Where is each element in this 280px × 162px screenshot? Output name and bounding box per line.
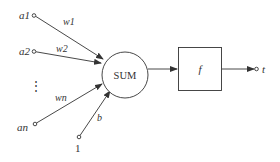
input-label-a1: a1 (19, 9, 30, 21)
sum-label: SUM (114, 70, 137, 81)
input-terminal-a2 (32, 50, 36, 54)
input-terminal-a1 (32, 14, 36, 18)
input-terminal-an (33, 122, 37, 126)
weight-label-w2: w2 (56, 43, 68, 54)
neuron-diagram: a1 w1 a2 w2 ⋮ an wn b 1 SUM f (0, 0, 280, 162)
output: t (222, 63, 266, 75)
bias-weight-label: b (97, 112, 102, 123)
edge-a2-sum (36, 52, 101, 63)
output-label: t (262, 63, 266, 75)
bias-terminal (77, 135, 81, 139)
bias-input: b 1 (75, 91, 110, 154)
edge-bias-sum (80, 91, 110, 136)
bias-input-label: 1 (75, 142, 81, 154)
input-a2: a2 w2 (19, 43, 101, 63)
input-label-a2: a2 (19, 45, 31, 57)
inputs-ellipsis: ⋮ (30, 79, 42, 93)
output-terminal (255, 67, 259, 71)
sum-node: SUM (102, 52, 148, 98)
activation-node: f (179, 48, 222, 91)
input-label-an: an (17, 121, 29, 133)
weight-label-w1: w1 (63, 16, 75, 27)
weight-label-wn: wn (55, 92, 67, 103)
